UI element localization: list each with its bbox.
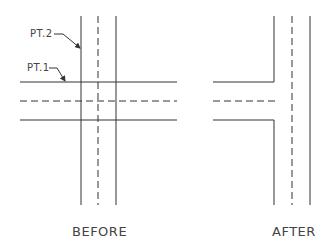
- pt2-label: PT.2: [30, 28, 53, 39]
- after-drawing: [213, 16, 310, 205]
- pt2-leader-arrow: [54, 34, 80, 48]
- pt1-leader-arrow: [49, 68, 65, 81]
- after-caption: AFTER: [272, 224, 316, 239]
- before-drawing: [20, 16, 177, 205]
- pt1-label: PT.1: [27, 62, 50, 73]
- before-caption: BEFORE: [72, 224, 127, 239]
- after-corner-lower: [213, 120, 274, 205]
- after-corner-upper: [213, 16, 274, 82]
